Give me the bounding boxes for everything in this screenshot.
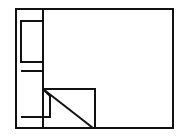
upper-block [21,21,43,62]
line-diagram [0,0,183,139]
lower-block [21,71,50,117]
